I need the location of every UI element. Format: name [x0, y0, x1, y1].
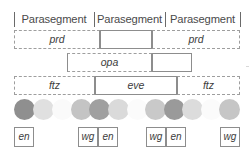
gene-box-opa: opa — [67, 53, 152, 72]
gene-box-ftz-right: ftz — [177, 76, 240, 95]
parasegment-separator-bar-4 — [240, 12, 241, 27]
tag-box-wg: wg — [220, 127, 240, 147]
tag-box-en: en — [166, 127, 186, 147]
cell-circle — [14, 99, 35, 120]
gene-box-prd-right: prd — [152, 30, 240, 49]
gene-box-label: opa — [68, 54, 151, 71]
parasegment-header: Parasegment Parasegment Parasegment — [0, 11, 252, 28]
cell-circle — [89, 99, 110, 120]
parasegment-diagram: Parasegment Parasegment Parasegment prd … — [0, 0, 252, 159]
cell-circle — [108, 99, 129, 120]
gene-box-prd-left: prd — [14, 30, 100, 49]
gene-row-opa: opa — [0, 53, 252, 72]
scan-artifact-speck — [246, 66, 249, 67]
cell-circle-row — [0, 99, 252, 121]
gene-box-label: ftz — [178, 77, 239, 94]
gene-row-prd: prd prd — [0, 30, 252, 49]
gene-box-label: prd — [153, 31, 239, 48]
tag-box-en: en — [14, 127, 34, 147]
gene-box-ftz-left: ftz — [14, 76, 95, 95]
cell-circle — [33, 99, 54, 120]
parasegment-label-1: Parasegment — [14, 11, 94, 28]
gene-box-label: eve — [96, 77, 176, 94]
cell-circle — [219, 99, 240, 120]
segment-polarity-tag-row: en wg en wg en wg — [0, 127, 252, 148]
gene-box-eve: eve — [95, 76, 177, 95]
gene-box-prd-middle-empty — [100, 30, 152, 49]
tag-box-en: en — [98, 127, 118, 147]
gene-box-opa-right-empty — [152, 53, 192, 72]
cell-circle — [52, 99, 73, 120]
parasegment-label-2: Parasegment — [94, 11, 165, 28]
parasegment-label-3: Parasegment — [165, 11, 240, 28]
gene-row-ftz-eve: ftz eve ftz — [0, 76, 252, 95]
cell-circle — [182, 99, 203, 120]
gene-box-label: ftz — [15, 77, 94, 94]
gene-box-label: prd — [15, 31, 99, 48]
cell-circle — [145, 99, 166, 120]
tag-box-wg: wg — [146, 127, 166, 147]
tag-box-wg: wg — [78, 127, 98, 147]
